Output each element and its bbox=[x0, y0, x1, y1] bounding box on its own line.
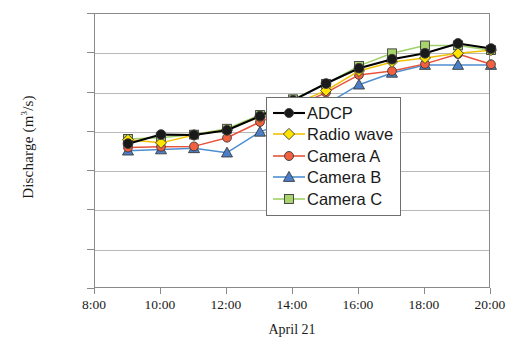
y-axis-tick bbox=[87, 131, 94, 132]
legend-item-label: Camera B bbox=[306, 169, 381, 186]
legend-item-label: Radio wave bbox=[306, 126, 393, 143]
data-point bbox=[420, 48, 430, 58]
data-point bbox=[123, 139, 133, 149]
data-point bbox=[156, 130, 166, 140]
x-axis-tick bbox=[490, 288, 491, 294]
data-point bbox=[190, 142, 199, 151]
legend-item-radio-wave[interactable]: Radio wave bbox=[272, 124, 393, 146]
legend-marker-icon bbox=[272, 170, 306, 184]
legend-item-camera-c[interactable]: Camera C bbox=[272, 188, 393, 210]
data-point bbox=[487, 60, 496, 69]
y-axis-tick bbox=[87, 288, 94, 289]
y-axis-tick bbox=[87, 52, 94, 53]
legend-item-label: Camera A bbox=[306, 148, 380, 165]
x-axis-tick-label: 8:00 bbox=[64, 297, 124, 313]
discharge-line-chart: Discharge (m3/s) 0100200300400500600700 … bbox=[0, 0, 523, 349]
x-axis-title: April 21 bbox=[94, 322, 490, 338]
y-axis-tick bbox=[87, 92, 94, 93]
y-axis-tick bbox=[87, 170, 94, 171]
y-axis-title-suffix: /s) bbox=[20, 95, 36, 111]
x-axis-tick-label: 14:00 bbox=[262, 297, 322, 313]
legend-item-label: Camera C bbox=[306, 191, 382, 208]
y-axis-title: Discharge (m3/s) bbox=[19, 27, 37, 267]
data-point bbox=[453, 39, 463, 49]
x-axis-tick-label: 18:00 bbox=[394, 297, 454, 313]
y-axis-tick bbox=[87, 13, 94, 14]
x-axis-tick bbox=[292, 288, 293, 294]
legend-marker-icon bbox=[272, 149, 306, 163]
x-axis-tick bbox=[94, 288, 95, 294]
data-point bbox=[189, 130, 199, 140]
y-axis-title-exponent: 3 bbox=[19, 111, 29, 116]
data-point bbox=[486, 44, 496, 54]
data-point bbox=[255, 111, 265, 121]
data-point bbox=[222, 125, 232, 135]
x-axis-tick bbox=[160, 288, 161, 294]
legend-item-label: ADCP bbox=[306, 105, 353, 122]
x-axis-tick-label: 12:00 bbox=[196, 297, 256, 313]
x-axis-tick-label: 20:00 bbox=[460, 297, 520, 313]
x-axis-tick bbox=[424, 288, 425, 294]
legend-item-adcp[interactable]: ADCP bbox=[272, 102, 393, 124]
y-axis-tick bbox=[87, 249, 94, 250]
y-axis-tick bbox=[87, 209, 94, 210]
data-point bbox=[321, 79, 331, 89]
y-axis-title-prefix: Discharge (m bbox=[20, 115, 36, 198]
x-axis-tick bbox=[226, 288, 227, 294]
data-point bbox=[387, 54, 397, 64]
legend-item-camera-b[interactable]: Camera B bbox=[272, 167, 393, 189]
legend: ADCPRadio waveCamera ACamera BCamera C bbox=[266, 97, 401, 216]
legend-item-camera-a[interactable]: Camera A bbox=[272, 145, 393, 167]
x-axis-tick bbox=[358, 288, 359, 294]
x-axis-tick-label: 10:00 bbox=[130, 297, 190, 313]
legend-marker-icon bbox=[272, 127, 306, 141]
legend-marker-icon bbox=[272, 106, 306, 120]
data-point bbox=[255, 126, 266, 136]
legend-marker-icon bbox=[272, 192, 306, 206]
x-axis-tick-label: 16:00 bbox=[328, 297, 388, 313]
data-point bbox=[354, 63, 364, 73]
